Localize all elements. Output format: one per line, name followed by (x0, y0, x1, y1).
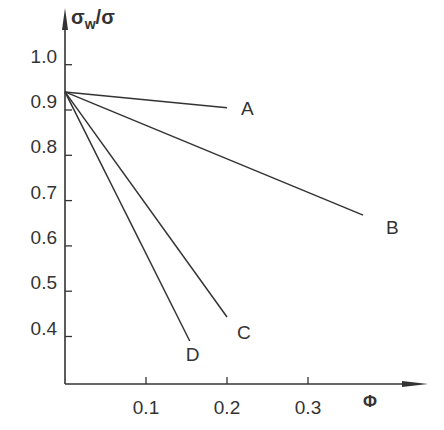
x-tick-label: 0.2 (214, 397, 240, 418)
y-axis-title: σw/σ (71, 6, 115, 32)
x-tick-label: 0.1 (133, 397, 159, 418)
series-lines (65, 92, 363, 341)
series-label-b: B (386, 217, 399, 238)
y-tick-label: 0.5 (31, 272, 57, 293)
x-axis-arrow-icon (402, 381, 428, 387)
x-axis-title: Φ (363, 392, 377, 411)
x-tick-label: 0.3 (295, 397, 321, 418)
series-label-a: A (241, 98, 254, 119)
series-label-d: D (186, 344, 200, 365)
y-tick-label: 0.8 (31, 136, 57, 157)
y-tick-label: 0.9 (31, 91, 57, 112)
series-line-a (65, 92, 227, 108)
y-tick-label: 0.4 (31, 318, 58, 339)
chart: 1.00.90.80.70.60.50.40.10.20.3σw/σΦ ABCD (0, 0, 444, 430)
y-tick-label: 0.6 (31, 227, 57, 248)
axes: 1.00.90.80.70.60.50.40.10.20.3σw/σΦ (31, 6, 428, 418)
y-tick-label: 0.7 (31, 182, 57, 203)
y-axis-arrow-icon (62, 8, 68, 30)
labels: ABCD (186, 98, 399, 365)
series-label-c: C (237, 322, 251, 343)
series-line-d (65, 92, 190, 341)
y-tick-label: 1.0 (31, 46, 57, 67)
